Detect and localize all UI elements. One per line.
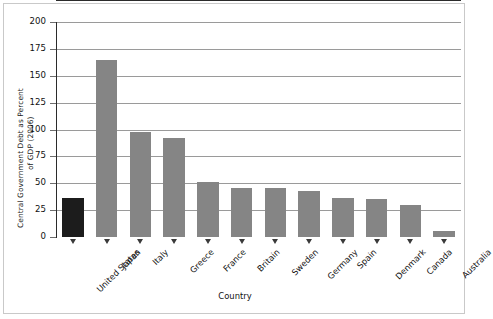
x-tick-arrow xyxy=(239,239,245,244)
y-tick-label: 100 xyxy=(20,125,46,134)
x-category-label: Britain xyxy=(255,247,282,274)
x-tick-arrow xyxy=(407,239,413,244)
x-category-label: Denmark xyxy=(393,247,427,281)
x-tick-arrow xyxy=(272,239,278,244)
bar xyxy=(332,198,354,237)
x-category-label: Sweden xyxy=(290,247,320,277)
x-category-label: Italy xyxy=(151,247,171,267)
x-category-label: Greece xyxy=(188,247,216,275)
x-axis-label: Country xyxy=(0,291,470,301)
bar xyxy=(62,198,84,237)
y-tick-label: 75 xyxy=(20,151,46,160)
y-tick-label: 50 xyxy=(20,178,46,187)
bar-series xyxy=(56,22,461,237)
x-tick-arrow xyxy=(171,239,177,244)
x-category-label: Australia xyxy=(460,247,493,280)
x-category-label: France xyxy=(221,247,248,274)
x-tick-arrow xyxy=(306,239,312,244)
bar xyxy=(298,191,320,237)
x-tick-arrow xyxy=(374,239,380,244)
x-tick-arrow xyxy=(137,239,143,244)
x-tick-arrow xyxy=(70,239,76,244)
y-tick-label: 0 xyxy=(20,232,46,241)
bar xyxy=(130,132,152,237)
bar xyxy=(231,188,253,237)
y-tick-label: 125 xyxy=(20,98,46,107)
bar xyxy=(400,205,422,237)
x-tick-arrow xyxy=(205,239,211,244)
y-tick-label: 150 xyxy=(20,71,46,80)
x-tick-arrow xyxy=(104,239,110,244)
bar xyxy=(265,188,287,237)
x-category-label: Japan xyxy=(118,247,142,271)
bar xyxy=(163,138,185,237)
x-category-label: Canada xyxy=(425,247,455,277)
y-tick-label: 175 xyxy=(20,44,46,53)
x-tick-arrow xyxy=(441,239,447,244)
bar xyxy=(433,231,455,237)
x-tick-arrow xyxy=(340,239,346,244)
y-tick-label: 200 xyxy=(20,17,46,26)
y-tick-label: 25 xyxy=(20,205,46,214)
bar xyxy=(96,60,118,237)
bar xyxy=(197,182,219,237)
x-category-label: Spain xyxy=(355,247,379,271)
x-axis-line xyxy=(56,0,461,1)
bar xyxy=(366,199,388,237)
